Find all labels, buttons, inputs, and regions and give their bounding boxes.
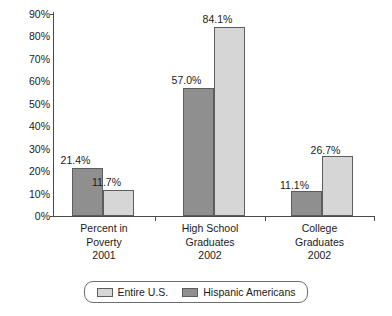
bar-chart: 90% 80% 70% 60% 50% 40% 30% 20% 10% 0% 2… [0, 0, 392, 316]
y-tick-label-30: 30% [6, 144, 50, 154]
legend-item-hispanic-americans[interactable]: Hispanic Americans [182, 287, 295, 298]
y-tick-label-10: 10% [6, 189, 50, 199]
category-label-college-line2: Graduates [265, 236, 374, 250]
chart-legend: Entire U.S. Hispanic Americans [84, 281, 308, 303]
category-label-college-line3: 2002 [265, 249, 374, 263]
y-tick-label-0: 0% [6, 211, 50, 221]
bar-value-entire-us-college: 26.7% [307, 145, 344, 156]
category-label-hs-grad-line1: High School [155, 222, 265, 236]
x-tick-separator-3 [374, 216, 375, 221]
bar-value-hispanic-college: 11.1% [276, 180, 313, 191]
category-label-hs-grad: High School Graduates 2002 [155, 222, 265, 263]
legend-label-hispanic-americans: Hispanic Americans [203, 287, 295, 298]
bar-value-hispanic-poverty: 21.4% [57, 155, 94, 166]
legend-swatch-hispanic-americans-icon [182, 288, 198, 297]
category-label-poverty-line2: Poverty [53, 236, 155, 250]
y-tick-label-50: 50% [6, 99, 50, 109]
y-tick-label-40: 40% [6, 121, 50, 131]
category-label-college-line1: College [265, 222, 374, 236]
y-tick-label-70: 70% [6, 54, 50, 64]
bar-entire-us-hs-grad[interactable] [214, 27, 245, 216]
category-label-poverty: Percent in Poverty 2001 [53, 222, 155, 263]
x-tick-separator-1 [155, 216, 156, 221]
category-label-hs-grad-line3: 2002 [155, 249, 265, 263]
bar-hispanic-college[interactable] [291, 191, 322, 216]
y-tick-label-60: 60% [6, 76, 50, 86]
bar-entire-us-poverty[interactable] [103, 190, 134, 216]
y-axis-tick-labels: 90% 80% 70% 60% 50% 40% 30% 20% 10% 0% [0, 0, 50, 316]
bar-value-entire-us-poverty: 11.7% [88, 177, 125, 188]
category-label-college: College Graduates 2002 [265, 222, 374, 263]
y-tick-label-90: 90% [6, 9, 50, 19]
bar-value-entire-us-hs-grad: 84.1% [199, 14, 236, 25]
x-tick-separator-2 [265, 216, 266, 221]
y-tick-label-20: 20% [6, 166, 50, 176]
category-label-hs-grad-line2: Graduates [155, 236, 265, 250]
x-axis-line [53, 216, 375, 217]
legend-swatch-entire-us-icon [97, 288, 113, 297]
legend-item-entire-us[interactable]: Entire U.S. [97, 287, 169, 298]
legend-label-entire-us: Entire U.S. [118, 287, 169, 298]
category-label-poverty-line1: Percent in [53, 222, 155, 236]
bar-hispanic-hs-grad[interactable] [183, 88, 214, 216]
bar-entire-us-college[interactable] [322, 156, 353, 216]
category-label-poverty-line3: 2001 [53, 249, 155, 263]
bar-value-hispanic-hs-grad: 57.0% [168, 75, 205, 86]
y-tick-label-80: 80% [6, 31, 50, 41]
